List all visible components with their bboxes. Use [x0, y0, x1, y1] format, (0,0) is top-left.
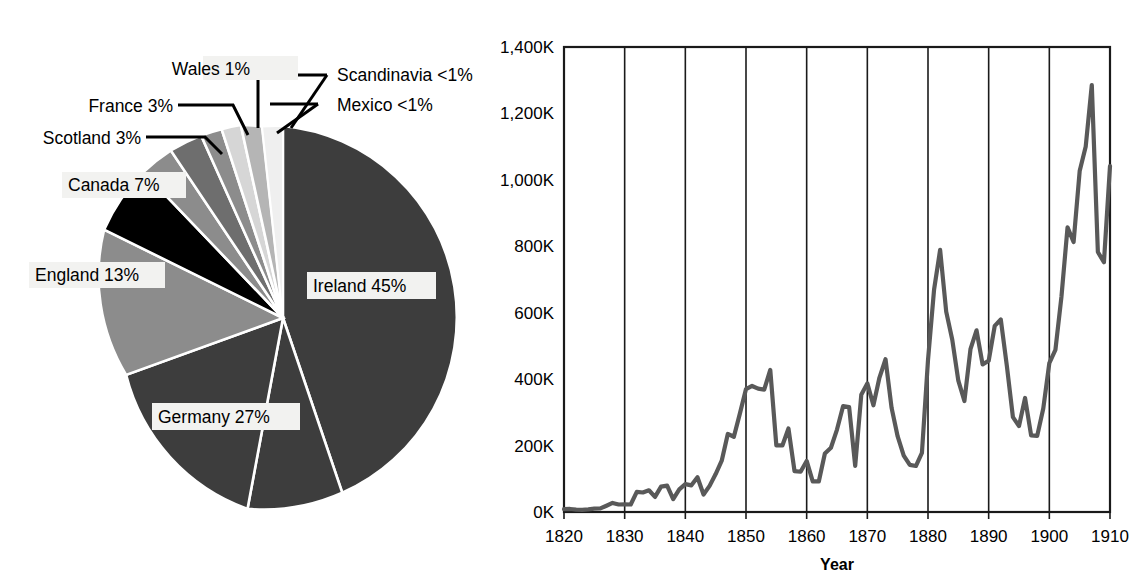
- pie-label-canada-text: Canada 7%: [68, 175, 159, 195]
- x-axis-tick-label: 1880: [909, 527, 947, 546]
- x-axis-title: Year: [820, 556, 854, 573]
- pie-label-france: France 3%: [88, 96, 173, 116]
- pie-label-france-text: France 3%: [88, 96, 173, 116]
- pie-label-wales-text: Wales 1%: [172, 59, 250, 79]
- y-axis-tick-label: 800K: [514, 237, 554, 256]
- line-chart-svg: 0K200K400K600K800K1,000K1,200K1,400K1820…: [500, 0, 1144, 586]
- pie-label-germany: Germany 27%: [152, 403, 300, 430]
- x-axis-tick-label: 1910: [1091, 527, 1129, 546]
- pie-label-wales: Wales 1%: [172, 56, 298, 80]
- pie-label-scotland-text: Scotland 3%: [43, 128, 141, 148]
- pie-label-mexico: Mexico <1%: [337, 95, 433, 115]
- x-axis-tick-label: 1870: [848, 527, 886, 546]
- pie-chart-svg: Wales 1% Scandinavia <1% Mexico <1% Fran…: [0, 0, 500, 586]
- x-axis-tick-label: 1860: [788, 527, 826, 546]
- y-axis-tick-label: 400K: [514, 370, 554, 389]
- x-axis-tick-label: 1900: [1030, 527, 1068, 546]
- x-axis-tick-label: 1850: [727, 527, 765, 546]
- x-axis-tick-label: 1820: [545, 527, 583, 546]
- pie-label-scandinavia: Scandinavia <1%: [337, 65, 473, 85]
- y-axis-tick-label: 1,200K: [500, 104, 555, 123]
- y-axis-tick-label: 0K: [533, 503, 554, 522]
- pie-label-canada: Canada 7%: [62, 172, 186, 198]
- line-chart-panel: 0K200K400K600K800K1,000K1,200K1,400K1820…: [500, 0, 1144, 586]
- pie-label-mexico-text: Mexico <1%: [337, 95, 433, 115]
- y-axis-tick-label: 200K: [514, 437, 554, 456]
- x-axis-tick-label: 1890: [970, 527, 1008, 546]
- pie-chart-panel: Wales 1% Scandinavia <1% Mexico <1% Fran…: [0, 0, 500, 586]
- y-axis-tick-label: 600K: [514, 304, 554, 323]
- pie-label-ireland: Ireland 45%: [307, 272, 436, 299]
- x-axis-tick-label: 1840: [666, 527, 704, 546]
- immigration-data-line: [564, 85, 1110, 510]
- x-axis-tick-label: 1830: [606, 527, 644, 546]
- y-axis-tick-label: 1,000K: [500, 171, 555, 190]
- plot-frame: [564, 47, 1110, 512]
- pie-label-scotland: Scotland 3%: [43, 128, 141, 148]
- pie-label-germany-text: Germany 27%: [158, 407, 270, 427]
- pie-label-scandinavia-text: Scandinavia <1%: [337, 65, 473, 85]
- pie-label-england: England 13%: [29, 262, 165, 288]
- pie-label-ireland-text: Ireland 45%: [313, 276, 406, 296]
- y-axis-tick-label: 1,400K: [500, 38, 555, 57]
- pie-label-england-text: England 13%: [35, 265, 139, 285]
